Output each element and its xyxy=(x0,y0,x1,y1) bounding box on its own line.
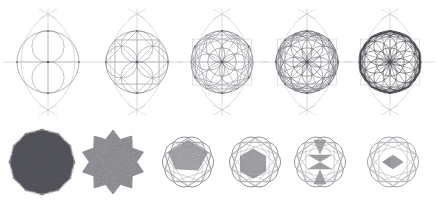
construction-node xyxy=(78,61,80,63)
construction-node xyxy=(419,71,421,73)
center-node xyxy=(47,61,49,63)
center-node xyxy=(389,61,391,63)
construction-node xyxy=(371,36,373,38)
construction-node xyxy=(105,61,107,63)
construction-node xyxy=(248,77,250,79)
construction-node xyxy=(136,30,138,32)
construction-node xyxy=(389,92,391,94)
construction-node xyxy=(337,61,339,63)
center-node xyxy=(136,61,138,63)
construction-node xyxy=(371,86,373,88)
construction-node xyxy=(328,83,330,85)
geometry-diagram-canvas xyxy=(0,0,438,200)
construction-node xyxy=(419,52,421,54)
center-node xyxy=(221,61,223,63)
construction-node xyxy=(328,39,330,41)
construction-node xyxy=(284,83,286,85)
construction-node xyxy=(16,61,18,63)
construction-node xyxy=(360,52,362,54)
construction-node xyxy=(47,30,49,32)
construction-node xyxy=(136,92,138,94)
construction-node xyxy=(47,92,49,94)
construction-node xyxy=(275,61,277,63)
construction-node xyxy=(221,92,223,94)
construction-node xyxy=(167,61,169,63)
construction-node xyxy=(306,92,308,94)
construction-node xyxy=(194,77,196,79)
construction-node xyxy=(389,30,391,32)
construction-node xyxy=(360,71,362,73)
construction-node xyxy=(221,30,223,32)
construction-node xyxy=(306,30,308,32)
construction-node xyxy=(248,46,250,48)
construction-node xyxy=(194,46,196,48)
construction-node xyxy=(407,36,409,38)
construction-node xyxy=(407,86,409,88)
construction-node xyxy=(284,39,286,41)
center-node xyxy=(306,61,308,63)
